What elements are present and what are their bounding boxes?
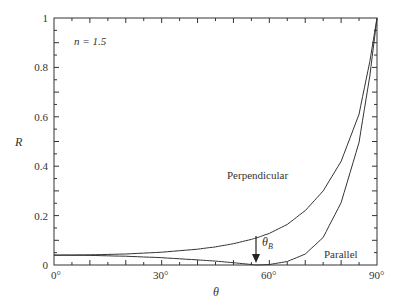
x-tick-60: 60° bbox=[261, 270, 276, 281]
y-tick-0.6: 0.6 bbox=[26, 112, 48, 123]
y-axis-label: R bbox=[15, 136, 22, 148]
y-tick-0: 0 bbox=[26, 260, 48, 271]
refractive-index-label: n = 1.5 bbox=[74, 36, 106, 47]
x-axis-label: θ bbox=[213, 286, 219, 298]
y-tick-0.2: 0.2 bbox=[26, 211, 48, 222]
x-tick-0: 0° bbox=[51, 270, 61, 281]
y-tick-0.8: 0.8 bbox=[26, 62, 48, 73]
x-tick-90: 90° bbox=[369, 270, 384, 281]
parallel-curve bbox=[54, 18, 377, 265]
perpendicular-label: Perpendicular bbox=[227, 170, 288, 181]
brewster-subscript: B bbox=[268, 242, 273, 251]
y-tick-0.4: 0.4 bbox=[26, 161, 48, 172]
perpendicular-curve bbox=[54, 18, 377, 255]
brewster-arrow-icon bbox=[252, 236, 260, 263]
brewster-angle-label: θB bbox=[262, 236, 273, 251]
x-tick-30: 30° bbox=[153, 270, 168, 281]
parallel-label: Parallel bbox=[324, 249, 358, 260]
y-tick-1: 1 bbox=[26, 13, 48, 24]
